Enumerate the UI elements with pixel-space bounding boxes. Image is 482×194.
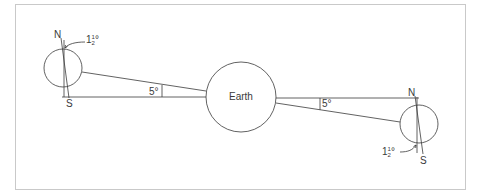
left-south-label: S: [66, 99, 73, 109]
left-north-label: N: [54, 30, 61, 40]
earth-label: Earth: [229, 92, 253, 102]
right-angle-label: 5°: [322, 99, 332, 109]
left-tilt-label: 112°: [86, 34, 99, 46]
right-inclined-line: [276, 103, 400, 122]
left-inclined-line: [82, 72, 206, 91]
right-south-label: S: [420, 156, 427, 166]
right-tilt-label: 112°: [382, 146, 395, 158]
right-north-label: N: [408, 88, 415, 98]
left-tilt-arrow: [65, 42, 85, 48]
left-angle-label: 5°: [149, 87, 159, 97]
right-tilt-degree: °: [391, 146, 395, 157]
left-tilt-degree: °: [95, 34, 99, 45]
